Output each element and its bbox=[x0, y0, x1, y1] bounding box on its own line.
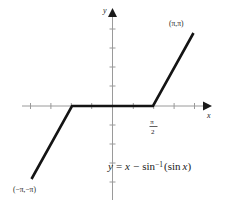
x-axis-label: x bbox=[206, 111, 211, 120]
eq-equals: = bbox=[116, 160, 122, 172]
y-axis-arrowhead bbox=[108, 8, 117, 17]
eq-y: y bbox=[107, 160, 113, 172]
plot-svg: x y (π,π) (−π,−π) π 2 y=x−sin−1(sinx) bbox=[0, 0, 231, 203]
eq-x: x bbox=[124, 160, 130, 172]
eq-close-paren: ) bbox=[187, 160, 191, 173]
eq-sin2: sin bbox=[168, 160, 181, 172]
annotation-negpi-negpi: (−π,−π) bbox=[13, 185, 36, 194]
y-axis-label: y bbox=[102, 6, 107, 15]
x-axis-arrowhead bbox=[203, 102, 212, 111]
pi-over-2-denominator: 2 bbox=[151, 128, 155, 136]
x-tick-label-pi-over-2: π 2 bbox=[150, 118, 158, 136]
eq-sin: sin bbox=[142, 160, 155, 172]
annotation-pi-pi: (π,π) bbox=[169, 19, 184, 28]
pi-over-2-numerator: π bbox=[150, 118, 154, 126]
equation-text: y=x−sin−1(sinx) bbox=[107, 160, 191, 174]
figure-container: x y (π,π) (−π,−π) π 2 y=x−sin−1(sinx) bbox=[0, 0, 231, 203]
eq-minus: − bbox=[133, 160, 139, 172]
eq-exponent: −1 bbox=[155, 160, 163, 169]
equation-label: y=x−sin−1(sinx) bbox=[107, 160, 191, 174]
